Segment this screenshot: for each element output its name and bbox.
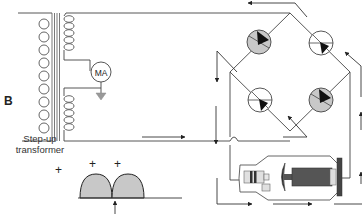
primary-coil-icon: [39, 19, 49, 133]
bridge-rectifier: [230, 13, 350, 180]
transformer-label-line2: transformer: [4, 144, 76, 155]
transformer-label-line1: Step-up: [4, 133, 76, 144]
plus-sign-1: +: [55, 163, 62, 177]
xray-tube-icon: [239, 156, 342, 200]
secondary-coil-upper-icon: [64, 16, 74, 51]
diode-top-left-icon: [247, 30, 271, 54]
rotor-icon: [292, 168, 336, 186]
panel-letter: B: [4, 94, 13, 108]
step-up-transformer: [18, 13, 74, 141]
ground-icon: [96, 88, 106, 100]
secondary-coil-lower-icon: [64, 96, 74, 131]
plus-sign-3: +: [114, 157, 121, 171]
diode-top-right-icon: [309, 31, 333, 55]
diode-bottom-right-icon: [309, 88, 333, 112]
meter-label: MA: [95, 68, 108, 78]
transformer-core-icon: [52, 13, 60, 141]
rectified-waveform-icon: [78, 174, 182, 198]
diode-bottom-left-icon: [248, 88, 272, 112]
milliammeter: MA: [91, 62, 111, 82]
rectifier-circuit-diagram: MA: [0, 0, 362, 215]
anode-end-plate-icon: [337, 158, 342, 196]
plus-sign-2: +: [89, 157, 96, 171]
transformer-label: Step-up transformer: [4, 133, 76, 155]
